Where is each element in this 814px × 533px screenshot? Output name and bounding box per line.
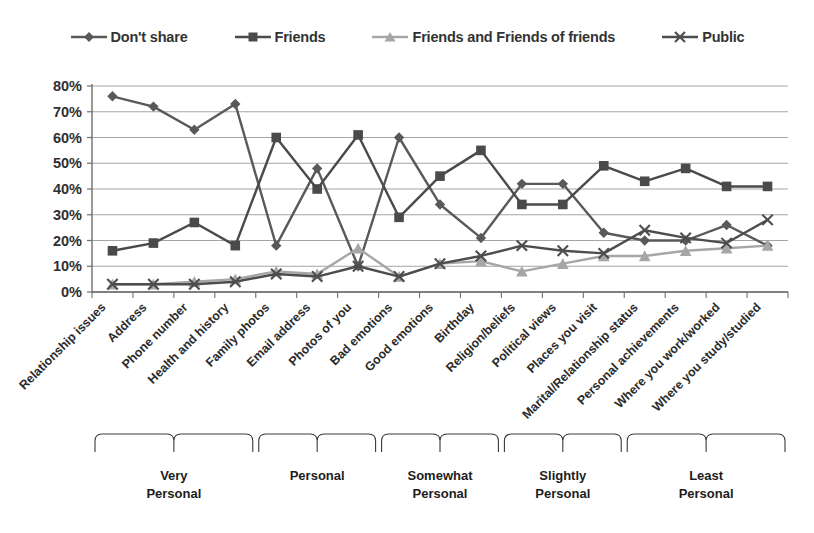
square-marker-icon [681, 164, 691, 174]
square-marker-icon [599, 161, 609, 171]
y-tick-label: 50% [53, 155, 82, 171]
square-marker-icon [394, 213, 404, 223]
group-bracket [627, 434, 785, 452]
group-label: Personal [535, 486, 590, 501]
square-marker-icon [558, 200, 568, 210]
square-marker-icon [517, 200, 527, 210]
group-label: Least [689, 468, 724, 483]
y-axis-labels: 0%10%20%30%40%50%60%70%80% [53, 78, 92, 300]
triangle-marker-icon [352, 243, 364, 254]
x-category-label: Religion/beliefs [443, 300, 518, 375]
square-marker-icon [435, 171, 445, 181]
group-brackets [95, 434, 785, 452]
diamond-marker-icon [107, 91, 117, 101]
diamond-marker-icon [394, 132, 404, 142]
y-tick-label: 80% [53, 78, 82, 94]
x-category-label: Relationship issues [16, 300, 108, 392]
square-marker-icon [476, 146, 486, 156]
diamond-marker-icon [271, 240, 281, 250]
chart-container: Don't share Friends Friends and Friends … [0, 0, 814, 533]
group-label: Very [160, 468, 188, 483]
y-tick-label: 30% [53, 207, 82, 223]
group-label: Slightly [539, 468, 587, 483]
square-marker-icon [312, 184, 322, 194]
square-marker-icon [763, 182, 773, 192]
plot-area: 0%10%20%30%40%50%60%70%80% Relationship … [0, 0, 814, 533]
group-label: Somewhat [407, 468, 473, 483]
y-tick-label: 20% [53, 233, 82, 249]
line-chart-svg: 0%10%20%30%40%50%60%70%80% Relationship … [0, 0, 814, 533]
square-marker-icon [271, 133, 281, 143]
group-label: Personal [413, 486, 468, 501]
group-label: Personal [290, 468, 345, 483]
y-tick-label: 70% [53, 104, 82, 120]
square-marker-icon [149, 238, 159, 248]
square-marker-icon [640, 176, 650, 186]
square-marker-icon [230, 241, 240, 251]
group-labels: VeryPersonalPersonalSomewhatPersonalSlig… [146, 468, 733, 501]
group-bracket [504, 434, 621, 452]
y-tick-label: 40% [53, 181, 82, 197]
x-category-label: Places you visit [524, 300, 600, 376]
group-bracket [259, 434, 376, 452]
group-label: Personal [146, 486, 201, 501]
y-tick-label: 0% [61, 284, 82, 300]
square-marker-icon [190, 218, 200, 228]
square-marker-icon [108, 246, 118, 256]
diamond-marker-icon [148, 101, 158, 111]
x-marker-icon [762, 215, 772, 225]
group-bracket [95, 434, 253, 452]
series-2 [108, 130, 773, 255]
x-axis-ticks [92, 292, 788, 298]
square-marker-icon [353, 130, 363, 140]
x-axis-labels: Relationship issuesAddressPhone numberHe… [16, 300, 763, 422]
series-1 [107, 91, 772, 271]
series-line [112, 135, 767, 251]
y-tick-label: 10% [53, 258, 82, 274]
diamond-marker-icon [721, 220, 731, 230]
diamond-marker-icon [640, 235, 650, 245]
diamond-marker-icon [312, 163, 322, 173]
y-tick-label: 60% [53, 130, 82, 146]
group-label: Personal [679, 486, 734, 501]
square-marker-icon [722, 182, 732, 192]
data-series [107, 91, 774, 289]
group-bracket [382, 434, 499, 452]
